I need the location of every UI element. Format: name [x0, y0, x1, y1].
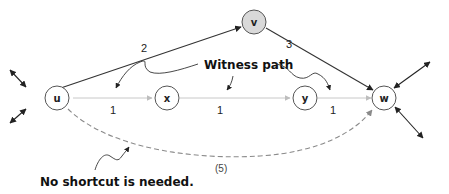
external-edge-w-lower [395, 107, 423, 138]
contraction-hierarchy-diagram: 2 3 1 1 1 (5) u v w x y Witness path No … [0, 0, 449, 194]
no-shortcut-pointer [95, 147, 129, 170]
node-y: y [293, 86, 317, 110]
edge-y-w-weight: 1 [330, 104, 336, 116]
external-edge-u-upper [10, 70, 26, 87]
edge-x-y-weight: 1 [217, 104, 223, 116]
node-u: u [45, 86, 69, 110]
edge-u-x-weight: 1 [110, 104, 116, 116]
node-u-label: u [53, 93, 60, 104]
node-x-label: x [164, 93, 171, 104]
external-edge-w-upper [394, 62, 430, 88]
edge-u-v-weight: 2 [141, 42, 147, 54]
witness-path-pointer-middle [227, 76, 233, 90]
node-y-label: y [302, 93, 309, 104]
edge-u-w-weight: (5) [215, 163, 227, 174]
node-v-label: v [251, 17, 258, 28]
external-edge-u-lower [10, 109, 26, 123]
node-v: v [242, 10, 266, 34]
node-w-label: w [379, 93, 388, 104]
no-shortcut-label: No shortcut is needed. [40, 175, 194, 189]
edge-v-w-weight: 3 [286, 38, 292, 50]
node-w: w [372, 86, 396, 110]
edge-u-w-dashed [68, 109, 372, 157]
node-x: x [155, 86, 179, 110]
